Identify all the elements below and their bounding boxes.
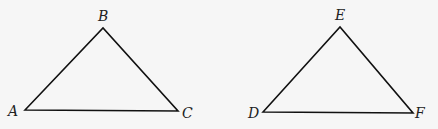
triangle-abc: A B C bbox=[6, 8, 193, 121]
vertex-label-f: F bbox=[414, 105, 426, 121]
vertex-label-e: E bbox=[334, 7, 345, 23]
triangle-abc-outline bbox=[25, 28, 178, 111]
vertex-label-c: C bbox=[182, 105, 193, 121]
diagram-canvas: A B C D E F bbox=[0, 0, 438, 129]
vertex-label-a: A bbox=[6, 103, 18, 119]
vertex-label-b: B bbox=[97, 8, 108, 24]
triangle-def: D E F bbox=[247, 7, 426, 121]
triangle-def-outline bbox=[263, 27, 413, 113]
vertex-label-d: D bbox=[247, 105, 259, 121]
triangles-figure: A B C D E F bbox=[0, 0, 438, 129]
